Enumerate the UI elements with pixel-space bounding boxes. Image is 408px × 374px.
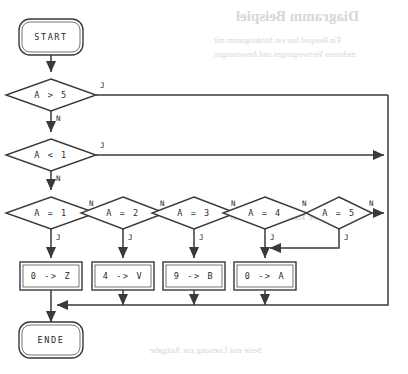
flowchart-canvas: START ENDE A > 5 A < 1 A = 1 A = 2 A = 3 <box>0 0 408 374</box>
decision-a-less-1-label: A < 1 <box>34 150 68 160</box>
process-assign-v-label: 4 -> V <box>103 271 143 281</box>
edge-label-eq1-yes: J <box>56 233 61 242</box>
process-assign-z-label: 0 -> Z <box>31 271 71 281</box>
decision-a-equals-2-label: A = 2 <box>106 208 140 218</box>
edge-label-eq2-yes: J <box>128 233 133 242</box>
decision-a-less-1: A < 1 <box>6 139 96 171</box>
edge-label-lt1-yes: J <box>100 141 105 150</box>
decision-a-equals-5: A = 5 <box>306 197 372 229</box>
edge-label-eq1-no: N <box>89 199 94 208</box>
decision-a-equals-1-label: A = 1 <box>34 208 68 218</box>
decision-a-equals-4-label: A = 4 <box>248 208 282 218</box>
decision-a-equals-5-label: A = 5 <box>322 208 356 218</box>
decision-a-equals-3-label: A = 3 <box>177 208 211 218</box>
decision-a-greater-5: A > 5 <box>6 79 96 111</box>
process-assign-b-label: 9 -> B <box>174 271 214 281</box>
terminal-start: START <box>19 19 83 55</box>
flowchart-page: Diagramm Beispiel Ein Beispiel fuer ein … <box>0 0 408 374</box>
terminal-start-label: START <box>34 32 68 42</box>
edge-label-eq2-no: N <box>160 199 165 208</box>
edge-label-eq3-yes: J <box>199 233 204 242</box>
process-assign-v: 4 -> V <box>92 262 154 290</box>
edge-label-lt1-no: N <box>56 174 61 183</box>
edge-label-eq4-yes: J <box>270 233 275 242</box>
edge-label-eq5-no: N <box>369 199 374 208</box>
edge-label-gt5-no: N <box>56 114 61 123</box>
edge-eq5-yes-to-p-a-path <box>270 229 339 248</box>
edge-label-eq4-no: N <box>302 199 307 208</box>
process-assign-z: 0 -> Z <box>20 262 82 290</box>
decision-a-equals-4: A = 4 <box>223 197 307 229</box>
terminal-ende-label: ENDE <box>38 335 65 345</box>
edge-label-gt5-yes: J <box>100 81 105 90</box>
decision-a-greater-5-label: A > 5 <box>34 90 68 100</box>
process-assign-b: 9 -> B <box>163 262 225 290</box>
edge-label-eq5-yes: J <box>344 233 349 242</box>
process-assign-a-label: 0 -> A <box>245 271 285 281</box>
edge-label-eq3-no: N <box>231 199 236 208</box>
process-assign-a: 0 -> A <box>234 262 296 290</box>
terminal-ende: ENDE <box>19 322 83 358</box>
